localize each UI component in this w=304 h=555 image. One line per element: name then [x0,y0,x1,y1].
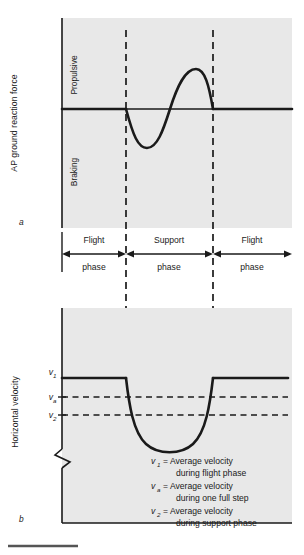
phase-arrow-2-head-right [284,251,292,258]
panel-b-level-label-v2: v 2 [49,410,57,422]
panel-b-letter: b [19,514,24,524]
legend-entry-2-symbol-subscript: 2 [156,511,161,518]
phase-label-1-second-line: phase [157,262,181,272]
legend-entry-0-symbol-subscript: 1 [157,461,160,468]
phase-label-0-name: Flight [83,235,105,245]
legend-entry-1-line1: = Average velocity [163,481,234,491]
phase-label-1-name: Support [154,235,185,245]
panel-a-braking-label: Braking [69,157,79,186]
figure-svg: AP ground reaction force Propulsive Brak… [0,0,304,555]
phase-label-0-second-line: phase [82,262,106,272]
legend-entry-1-line2: during one full step [176,493,249,503]
legend-entry-2-line1: = Average velocity [163,506,234,516]
panel-a-propulsive-label: Propulsive [69,55,79,94]
legend-entry-0-line2: during flight phase [176,468,246,478]
panel-b: Horizontal velocity v 1 v a v 2 v 1 = Av… [10,308,292,528]
phase-arrow-2-head-left [213,251,221,258]
panel-b-level-label-va: v a [49,392,57,404]
figure-container: AP ground reaction force Propulsive Brak… [0,0,304,555]
panel-b-y-axis-title: Horizontal velocity [10,376,20,448]
panel-a: AP ground reaction force Propulsive Brak… [9,18,292,228]
level-label-va-subscript: a [53,397,57,404]
phase-label-2-name: Flight [241,235,263,245]
phase-arrow-1-head-right [205,251,213,258]
panel-a-y-axis-title: AP ground reaction force [9,74,19,171]
panel-b-level-label-v1: v 1 [49,367,57,379]
legend-entry-1-symbol-subscript: a [157,486,161,493]
phase-label-band: Flight phase Support phase Flight phase [62,232,292,272]
phase-arrow-0-head-right [118,251,126,258]
legend-entry-0-line1: = Average velocity [163,456,234,466]
phase-arrow-0-head-left [62,251,70,258]
level-label-v2-subscript: 2 [52,415,57,422]
phase-label-2-second-line: phase [240,262,264,272]
panel-a-plot-background [62,18,292,228]
legend-entry-2-line2: during support phase [176,518,257,528]
legend-entry-2-symbol-base: v [151,506,156,516]
panel-a-letter: a [19,217,24,227]
phase-arrow-1-head-left [126,251,134,258]
legend-entry-1-symbol-base: v [151,481,156,491]
legend-entry-0-symbol-base: v [151,456,156,466]
level-label-v1-subscript: 1 [53,372,56,379]
